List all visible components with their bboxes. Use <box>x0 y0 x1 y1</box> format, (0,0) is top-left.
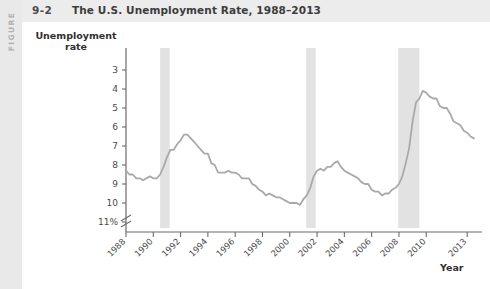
unemployment-rate-line <box>126 91 474 205</box>
figure-container: FIGURE 9-2 The U.S. Unemployment Rate, 1… <box>0 0 490 289</box>
x-axis-ticks: 1988199019921994199619982000200220042006… <box>105 232 469 259</box>
y-tick-label: 6 <box>112 122 118 132</box>
unemployment-line-chart: 11%109876543 198819901992199419961998200… <box>22 22 490 289</box>
x-tick-label: 1996 <box>214 236 236 258</box>
figure-rail-label: FIGURE <box>7 4 16 60</box>
recession-band-2 <box>306 48 316 228</box>
figure-number: 9-2 <box>32 4 52 16</box>
x-tick-label: 1992 <box>160 236 182 258</box>
x-tick-label: 1994 <box>187 236 209 258</box>
y-axis-ticks: 11%109876543 <box>98 65 126 227</box>
recession-band-3 <box>398 48 419 228</box>
x-tick-label: 1990 <box>132 236 154 258</box>
recession-bands <box>160 48 419 228</box>
chart-axes <box>121 48 482 232</box>
x-tick-label: 2010 <box>405 236 427 258</box>
y-tick-label: 10 <box>107 198 119 208</box>
x-tick-label: 2004 <box>323 236 345 258</box>
y-tick-label: 3 <box>112 65 118 75</box>
figure-title: The U.S. Unemployment Rate, 1988–2013 <box>72 4 321 16</box>
x-tick-label: 2008 <box>378 236 400 258</box>
y-tick-label: 7 <box>112 141 118 151</box>
figure-rail: FIGURE <box>0 0 22 289</box>
recession-band-1 <box>160 48 170 228</box>
chart-canvas: Unemployment rate Year 11%109876543 1988… <box>22 22 490 289</box>
y-tick-label: 9 <box>112 179 118 189</box>
y-tick-label: 5 <box>112 103 118 113</box>
y-tick-label: 8 <box>112 160 118 170</box>
y-tick-label: 4 <box>112 84 118 94</box>
x-tick-label: 1988 <box>105 236 127 258</box>
x-tick-label: 2002 <box>296 236 318 258</box>
x-tick-label: 1998 <box>242 236 264 258</box>
x-tick-label: 2006 <box>351 236 373 258</box>
x-tick-label: 2000 <box>269 236 291 258</box>
x-tick-label: 2013 <box>446 236 468 258</box>
y-tick-label: 11% <box>98 217 118 227</box>
